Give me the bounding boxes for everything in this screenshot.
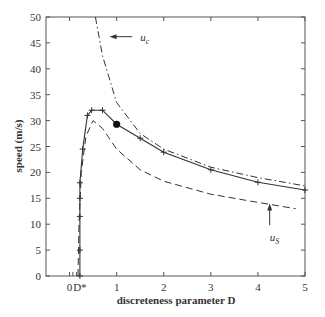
annotations: ucuS <box>110 31 280 246</box>
y-tick-label: 40 <box>30 63 42 75</box>
annotation-label: uS <box>270 231 280 246</box>
x-tick-label: 0 <box>67 281 73 293</box>
x-tick-label: 3 <box>208 281 214 293</box>
x-tick-label: 1 <box>114 281 120 293</box>
x-tick-label: 5 <box>302 281 308 293</box>
y-tick-label: 25 <box>30 141 42 153</box>
x-tick-label: 2 <box>161 281 167 293</box>
axis-ticks: 012345D*05101520253035404550 <box>30 11 308 293</box>
x-tick-label: 4 <box>255 281 261 293</box>
annotation-label: uc <box>140 31 150 46</box>
y-tick-label: 45 <box>30 37 42 49</box>
x-axis-title: discreteness parameter D <box>117 294 236 306</box>
series-u-c <box>95 17 305 186</box>
series-speed-computed- <box>80 110 305 276</box>
y-tick-label: 50 <box>30 11 42 23</box>
speed-vs-discreteness-chart: 012345D*05101520253035404550 ucuS discre… <box>0 0 325 317</box>
y-tick-label: 15 <box>30 192 42 204</box>
y-tick-label: 35 <box>30 89 42 101</box>
series-u-s <box>78 121 296 276</box>
d-star-label: D* <box>73 281 86 293</box>
y-tick-label: 10 <box>30 218 42 230</box>
highlight-point <box>113 121 120 128</box>
y-tick-label: 5 <box>36 244 42 256</box>
y-tick-label: 30 <box>30 115 42 127</box>
y-axis-title: speed (m/s) <box>12 119 25 172</box>
plot-frame <box>46 17 305 276</box>
y-tick-label: 20 <box>30 166 42 178</box>
y-tick-label: 0 <box>36 270 42 282</box>
